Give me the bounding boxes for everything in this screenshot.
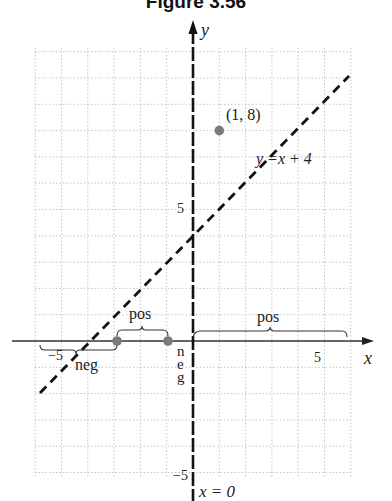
y-axis-arrow-icon [189, 20, 198, 34]
point-label: (1, 8) [226, 106, 261, 124]
line-label: y =x + 4 [254, 150, 312, 168]
neg-left-label: neg [75, 356, 98, 374]
svg-text:g: g [177, 369, 185, 385]
pos-right-label: pos [257, 308, 279, 326]
y-axis [189, 20, 198, 501]
pos-left-label: pos [129, 305, 151, 323]
x-tick-neg5: −5 [48, 348, 63, 363]
y-tick-5: 5 [177, 201, 184, 216]
x-axis-label: x [363, 348, 372, 368]
line-y-equals-x-plus-4 [40, 76, 349, 393]
x-tick-5: 5 [314, 350, 321, 365]
y-tick-neg5: −5 [173, 468, 188, 483]
x-axis-arrow-icon [362, 337, 374, 345]
y-axis-label: y [199, 20, 209, 40]
neg-mid-label: n e g [177, 343, 185, 385]
point-1-8 [215, 126, 225, 136]
asymptote-label: x = 0 [198, 482, 236, 501]
chart-canvas: y x (1, 8) y =x + 4 5 −5 5 −5 x = 0 pos … [0, 0, 392, 501]
point-neg1-0 [163, 336, 173, 346]
point-neg3-0 [112, 336, 122, 346]
